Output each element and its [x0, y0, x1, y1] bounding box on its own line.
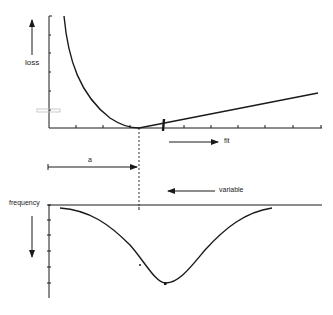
distance-a-arrow — [48, 164, 137, 170]
variable-label: variable — [219, 186, 244, 193]
loss-y-axis — [49, 16, 52, 128]
frequency-label: frequency — [9, 199, 40, 206]
curve-point-marker — [139, 264, 141, 266]
distance-a-label: a — [88, 156, 92, 163]
frequency-distribution-curve — [60, 208, 272, 283]
fit-label: fit — [224, 137, 229, 144]
curve-minimum-marker — [164, 282, 167, 285]
current-fit-marker — [163, 119, 164, 131]
loss-label: loss — [25, 58, 39, 67]
diagram-canvas — [0, 0, 333, 315]
loss-curve — [64, 16, 318, 128]
frequency-y-axis — [47, 205, 51, 298]
loss-x-axis — [49, 125, 322, 128]
